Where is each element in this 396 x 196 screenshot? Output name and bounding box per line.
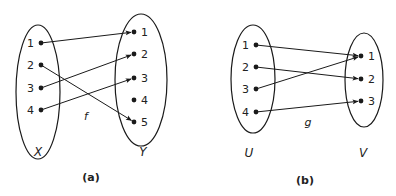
mapping-arrows-f — [41, 32, 131, 120]
element-point — [359, 77, 364, 82]
element-point — [132, 76, 137, 81]
element-label: 2 — [368, 73, 375, 86]
set-v-label: V — [359, 146, 368, 160]
element-label: 5 — [141, 116, 148, 129]
function-g-label: g — [305, 116, 312, 129]
element-label: 1 — [141, 26, 148, 39]
diagram-b: 1234 123 U V g (b) — [231, 25, 383, 187]
set-y-elements: 12345 — [132, 26, 148, 129]
element-point — [254, 110, 259, 115]
set-u-label: U — [245, 146, 254, 160]
element-point — [132, 120, 137, 125]
set-y-label: Y — [139, 145, 148, 159]
element-label: 1 — [242, 39, 249, 52]
set-x-ellipse — [16, 25, 60, 159]
function-f-label: f — [84, 110, 90, 123]
mapping-arrow — [41, 32, 131, 43]
mapping-arrow — [41, 55, 131, 88]
element-label: 4 — [242, 106, 249, 119]
element-label: 3 — [368, 95, 375, 108]
element-label: 1 — [368, 50, 375, 63]
element-point — [132, 98, 137, 103]
function-mapping-figure: 1234 12345 X Y f (a) 1234 123 U V g (b) — [0, 0, 396, 196]
diagram-a: 1234 12345 X Y f (a) — [16, 14, 167, 184]
element-label: 3 — [242, 83, 249, 96]
element-point — [359, 99, 364, 104]
element-label: 2 — [242, 61, 249, 74]
set-u-ellipse — [231, 25, 275, 133]
element-point — [254, 43, 259, 48]
mapping-arrows-g — [256, 45, 358, 112]
element-label: 4 — [27, 104, 34, 117]
set-x-elements: 1234 — [27, 37, 43, 117]
set-v-elements: 123 — [359, 50, 375, 108]
set-x-label: X — [33, 145, 43, 159]
element-point — [39, 108, 44, 113]
element-label: 3 — [27, 82, 34, 95]
mapping-arrow — [256, 57, 358, 89]
caption-a: (a) — [82, 171, 99, 184]
element-label: 3 — [141, 72, 148, 85]
element-label: 4 — [141, 94, 148, 107]
element-label: 1 — [27, 37, 34, 50]
element-point — [359, 54, 364, 59]
set-u-elements: 1234 — [242, 39, 258, 119]
element-point — [132, 52, 137, 57]
element-point — [254, 65, 259, 70]
mapping-arrow — [41, 79, 131, 110]
caption-b: (b) — [296, 174, 314, 187]
mapping-arrow — [256, 101, 358, 112]
set-v-ellipse — [345, 33, 383, 127]
element-point — [39, 41, 44, 46]
element-point — [254, 87, 259, 92]
element-point — [132, 30, 137, 35]
element-point — [39, 63, 44, 68]
element-label: 2 — [141, 48, 148, 61]
mapping-diagrams-svg: 1234 12345 X Y f (a) 1234 123 U V g (b) — [0, 0, 396, 196]
element-label: 2 — [27, 59, 34, 72]
element-point — [39, 86, 44, 91]
